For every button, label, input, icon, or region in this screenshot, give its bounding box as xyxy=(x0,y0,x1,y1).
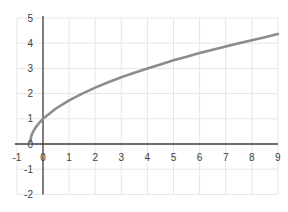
x-tick-label: 5 xyxy=(171,152,177,163)
y-tick-label: 5 xyxy=(27,13,33,24)
x-tick-label: 7 xyxy=(223,152,229,163)
y-tick-label: 1 xyxy=(27,113,33,124)
y-tick-label: 0 xyxy=(27,139,33,150)
y-tick-label: -2 xyxy=(24,189,33,200)
x-tick-label: 1 xyxy=(66,152,72,163)
y-tick-label: 3 xyxy=(27,63,33,74)
chart-plot: -10123456789 -2-1012345 xyxy=(0,0,288,212)
x-tick-labels: -10123456789 xyxy=(12,152,281,163)
y-tick-labels: -2-1012345 xyxy=(24,13,33,200)
x-tick-label: 3 xyxy=(119,152,125,163)
x-tick-label: 4 xyxy=(145,152,151,163)
series-line xyxy=(30,34,278,144)
y-tick-label: -1 xyxy=(24,164,33,175)
x-tick-label: 2 xyxy=(92,152,98,163)
x-tick-label: 0 xyxy=(40,152,46,163)
data-series-curve xyxy=(30,34,278,144)
x-tick-label: -1 xyxy=(12,152,21,163)
y-tick-label: 2 xyxy=(27,88,33,99)
x-tick-label: 9 xyxy=(275,152,281,163)
y-tick-label: 4 xyxy=(27,38,33,49)
x-tick-label: 6 xyxy=(197,152,203,163)
x-tick-label: 8 xyxy=(249,152,255,163)
